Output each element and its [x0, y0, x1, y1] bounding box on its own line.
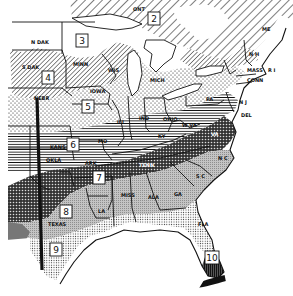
- state-label: PA: [206, 96, 213, 102]
- state-label: N DAK: [31, 39, 50, 45]
- state-label: WIS: [108, 67, 119, 73]
- zone-label-5: 5: [82, 100, 94, 113]
- state-label: FLA: [198, 221, 209, 227]
- state-label: TENN: [139, 162, 154, 168]
- svg-text:3: 3: [79, 36, 85, 46]
- svg-text:7: 7: [96, 173, 102, 183]
- state-label: W VA: [182, 122, 197, 128]
- state-label: ME: [262, 26, 271, 32]
- zone-label-7: 7: [93, 171, 105, 184]
- state-label: TEXAS: [48, 221, 67, 227]
- zone-label-10: 10: [205, 251, 219, 264]
- svg-text:2: 2: [151, 14, 157, 24]
- state-label: GA: [174, 191, 182, 197]
- svg-text:6: 6: [70, 140, 76, 150]
- state-label: ALA: [148, 194, 159, 200]
- state-label: MO: [98, 138, 107, 144]
- state-label: CONN: [247, 77, 263, 83]
- state-label: LA: [98, 208, 105, 214]
- state-label: ONT: [133, 6, 145, 12]
- state-label: VA: [211, 131, 219, 137]
- zone-label-3: 3: [76, 34, 88, 47]
- svg-text:5: 5: [85, 102, 91, 112]
- zone-label-4: 4: [42, 71, 54, 84]
- hardiness-zone-map: N DAK S DAK NEBR MINN WIS IOWA KANS MO I…: [0, 0, 293, 296]
- state-label: OHIO: [163, 116, 178, 122]
- state-label: DEL: [241, 112, 253, 118]
- lake-huron: [144, 40, 176, 72]
- state-label: N H: [249, 51, 259, 57]
- state-label: N C: [218, 155, 228, 161]
- state-label: MASS: [247, 67, 263, 73]
- svg-text:9: 9: [53, 245, 59, 255]
- state-label: MICH: [150, 77, 165, 83]
- zone-label-2: 2: [148, 12, 160, 25]
- state-label: KANS: [50, 144, 66, 150]
- state-label: IOWA: [90, 88, 105, 94]
- zone-label-8: 8: [60, 205, 72, 218]
- state-label: R I: [268, 67, 276, 73]
- svg-text:8: 8: [63, 207, 69, 217]
- state-label: KY: [158, 133, 166, 139]
- zone-label-6: 6: [67, 138, 79, 151]
- state-label: MINN: [73, 61, 88, 67]
- state-label: NEBR: [34, 95, 49, 101]
- zone-label-9: 9: [50, 243, 62, 256]
- state-label: MISS: [121, 192, 135, 198]
- state-label: ARK: [85, 160, 98, 166]
- svg-text:10: 10: [206, 253, 218, 263]
- svg-text:4: 4: [45, 73, 51, 83]
- state-label: IND: [139, 115, 149, 121]
- state-label: S C: [196, 173, 205, 179]
- state-label: OKLA: [46, 157, 61, 163]
- state-label: N J: [239, 99, 247, 105]
- state-label: ILL: [117, 119, 126, 125]
- state-label: S DAK: [22, 64, 40, 70]
